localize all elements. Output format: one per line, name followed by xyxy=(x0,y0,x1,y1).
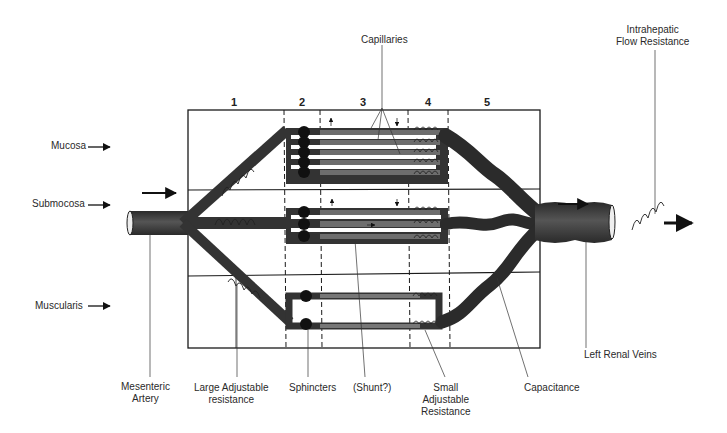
intrahepatic-line-1: Intrahepatic xyxy=(616,24,689,36)
mucosa-capillary-bed xyxy=(286,118,448,184)
layer-label-muscularis: Muscularis xyxy=(35,300,83,312)
circulation-diagram xyxy=(0,0,727,433)
venous-capacitance-vessels xyxy=(442,136,540,322)
column-number-5: 5 xyxy=(484,96,490,108)
column-number-4: 4 xyxy=(425,96,431,108)
column-number-1: 1 xyxy=(231,96,237,108)
layer-label-submucosa: Submocosa xyxy=(32,198,85,210)
small-res-line-2: Adjustable xyxy=(421,394,470,406)
label-shunt: (Shunt?) xyxy=(353,382,391,394)
large-res-line-1: Large Adjustable xyxy=(194,382,269,394)
layer-arrows xyxy=(88,147,110,306)
layer-label-mucosa: Mucosa xyxy=(51,140,86,152)
large-res-line-2: resistance xyxy=(194,394,269,406)
column-number-3: 3 xyxy=(360,96,366,108)
intrahepatic-line-2: Flow Resistance xyxy=(616,36,689,48)
mesenteric-line-1: Mesenteric xyxy=(121,381,170,393)
label-capillaries: Capillaries xyxy=(361,34,408,46)
muscularis-capillary-loop xyxy=(289,290,439,330)
sphincter-icons xyxy=(298,126,310,178)
label-large-adjustable-resistance: Large Adjustable resistance xyxy=(194,382,269,406)
label-capacitance: Capacitance xyxy=(524,382,580,394)
label-intrahepatic-flow-resistance: Intrahepatic Flow Resistance xyxy=(616,24,689,48)
label-mesenteric-artery: Mesenteric Artery xyxy=(121,381,170,405)
label-left-renal-veins: Left Renal Veins xyxy=(584,349,657,361)
label-sphincters: Sphincters xyxy=(289,382,336,394)
intrahepatic-resistance-coil xyxy=(632,202,692,230)
small-res-line-1: Small xyxy=(421,382,470,394)
label-small-adjustable-resistance: Small Adjustable Resistance xyxy=(421,382,470,418)
submucosa-capillary-bed xyxy=(286,199,448,244)
arterial-branches xyxy=(183,130,290,322)
small-res-line-3: Resistance xyxy=(421,406,470,418)
left-renal-veins-tube xyxy=(535,202,615,243)
mesenteric-line-2: Artery xyxy=(121,393,170,405)
column-number-2: 2 xyxy=(299,96,305,108)
mesenteric-artery xyxy=(127,193,188,235)
